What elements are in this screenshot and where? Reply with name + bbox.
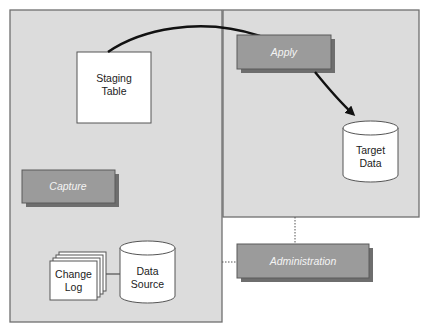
change-log-label-line2: Log — [65, 281, 83, 293]
staging-table-label-line2: Table — [101, 85, 126, 97]
apply-process[interactable]: Apply — [237, 35, 335, 73]
target-data-cylinder[interactable]: Target Data — [343, 121, 398, 182]
data-source-label-line2: Source — [131, 278, 164, 290]
capture-label: Capture — [49, 180, 87, 192]
staging-table[interactable]: Staging Table — [77, 52, 151, 123]
administration-label: Administration — [269, 255, 337, 267]
data-source-cylinder[interactable]: Data Source — [120, 241, 175, 303]
staging-table-label-line1: Staging — [96, 72, 132, 84]
change-log-label-line1: Change — [55, 268, 92, 280]
data-source-label-line1: Data — [136, 265, 158, 277]
administration-process[interactable]: Administration — [237, 244, 373, 282]
change-log-stack[interactable]: Change Log — [50, 252, 106, 300]
capture-process[interactable]: Capture — [22, 170, 119, 207]
target-data-label-line1: Target — [356, 144, 385, 156]
replication-diagram: Staging Table Apply Target Data Capture … — [0, 0, 424, 333]
apply-label: Apply — [270, 46, 298, 58]
target-data-label-line2: Data — [359, 157, 381, 169]
